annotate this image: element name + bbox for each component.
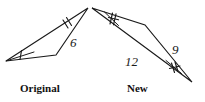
caption-original: Original [20,83,60,94]
caption-new: New [127,83,148,94]
side-length-label-6: 6 [70,36,77,49]
geometry-figure: 6 12 9 Original New [0,0,205,102]
side-length-label-9: 9 [172,43,179,56]
side-length-label-12: 12 [125,55,138,68]
